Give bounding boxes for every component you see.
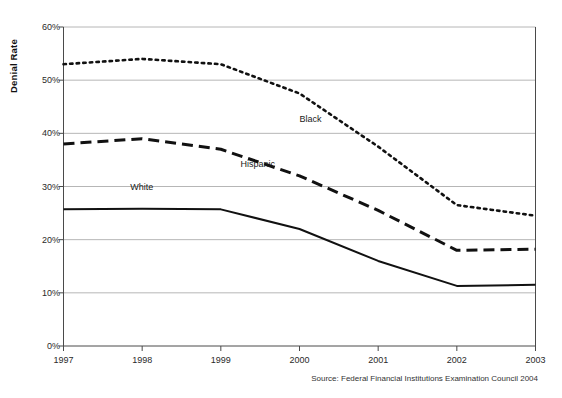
series-line-hispanic xyxy=(64,139,536,251)
source-note: Source: Federal Financial Institutions E… xyxy=(311,374,538,383)
series-label-hispanic: Hispanic xyxy=(241,159,276,169)
series-line-white xyxy=(64,209,536,286)
data-series-lines xyxy=(64,59,536,286)
series-line-black xyxy=(64,59,536,216)
series-label-white: White xyxy=(130,182,153,192)
plot-area xyxy=(0,0,562,398)
series-label-black: Black xyxy=(300,114,322,124)
chart-figure: Denial Rate 0%10%20%30%40%50%60% 1997199… xyxy=(0,0,562,398)
